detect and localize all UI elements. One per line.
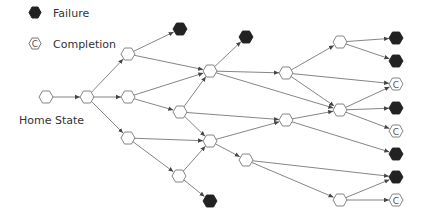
completion-legend-label: Completion	[53, 38, 116, 51]
state-node-d1	[279, 67, 293, 79]
completion-node-r8: C	[389, 194, 403, 206]
failure-node-r2	[389, 55, 403, 67]
legend: C	[29, 7, 41, 49]
completion-glyph: C	[393, 196, 399, 206]
state-node-b2	[121, 91, 135, 103]
edge-d2-m2	[292, 111, 333, 119]
edge-a-b1	[91, 59, 123, 93]
state-node-home	[39, 91, 53, 103]
state-node-c2	[173, 106, 187, 118]
edge-c2-c3	[184, 116, 205, 136]
edge-c4-c3	[183, 146, 205, 171]
edge-c1-f2	[214, 42, 241, 67]
edge-e-m3	[252, 162, 334, 197]
edge-b2-c2	[134, 99, 174, 110]
state-node-m1	[333, 36, 347, 48]
edge-b1-f1	[133, 32, 173, 51]
edge-c2-c1	[184, 77, 206, 108]
edge-m2-r3	[345, 87, 389, 108]
state-node-c3	[203, 135, 217, 147]
edge-c4-f3	[184, 180, 205, 197]
edge-d1-m1	[291, 45, 334, 70]
state-node-d2	[279, 114, 293, 126]
state-node-m2	[333, 104, 347, 116]
completion-node-r5: C	[389, 125, 403, 137]
completion-glyph: C	[393, 80, 399, 90]
state-node-a	[80, 91, 94, 103]
edge-b3-c4	[133, 142, 174, 172]
edge-b2-c1	[134, 73, 204, 95]
edge-c3-d2	[216, 122, 279, 140]
state-node-b3	[121, 132, 135, 144]
state-node-b1	[121, 48, 135, 60]
home-state-label: Home State	[19, 114, 84, 127]
edge-b3-c3	[134, 138, 203, 141]
edge-e-r7	[252, 161, 389, 177]
edge-c2-d2	[186, 112, 279, 119]
edge-m3-r7	[346, 180, 390, 198]
failure-legend-label: Failure	[53, 7, 89, 20]
edge-d1-r3	[292, 74, 389, 84]
state-node-c1	[203, 65, 217, 77]
edge-m1-r1	[346, 38, 389, 41]
edge-a-b3	[91, 101, 123, 133]
failure-node-r7	[389, 171, 403, 183]
edge-b1-c1	[134, 55, 203, 69]
failure-node-r6	[389, 148, 403, 160]
state-node-e	[239, 154, 253, 166]
failure-node-f3	[203, 195, 217, 207]
state-node-c4	[172, 170, 186, 182]
edge-m2-r5	[346, 112, 390, 128]
edge-m1-r2	[346, 44, 390, 59]
edge-c1-d1	[216, 71, 279, 73]
failure-node-r4	[389, 102, 403, 114]
state-node-m3	[333, 194, 347, 206]
edge-m2-r4	[346, 108, 389, 110]
completion-legend-glyph: C	[32, 39, 38, 49]
failure-node-f2	[239, 31, 253, 43]
edge-c3-e	[215, 144, 240, 157]
failure-legend-icon	[29, 7, 41, 18]
completion-node-r3: C	[389, 78, 403, 90]
state-diagram: C CCC Failure Completion Home State	[0, 0, 424, 222]
edge-d2-r6	[292, 122, 390, 152]
completion-glyph: C	[393, 127, 399, 137]
failure-node-f1	[173, 23, 187, 35]
diagram-canvas: C CCC	[0, 0, 424, 222]
edge-c1-m2	[216, 73, 334, 108]
failure-node-r1	[389, 32, 403, 44]
